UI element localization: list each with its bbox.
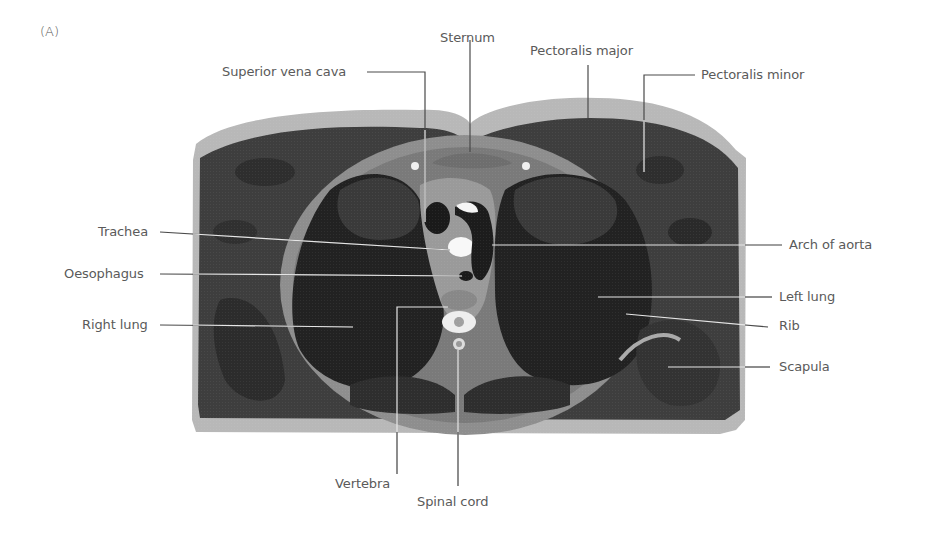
label-sternum: Sternum <box>440 30 495 46</box>
label-scapula: Scapula <box>779 359 830 375</box>
label-left-lung: Left lung <box>779 289 835 305</box>
label-right-lung: Right lung <box>82 317 148 333</box>
label-superior-vena-cava: Superior vena cava <box>222 64 346 80</box>
label-pectoralis-major: Pectoralis major <box>530 43 633 59</box>
label-arch-of-aorta: Arch of aorta <box>789 237 872 253</box>
label-rib: Rib <box>779 318 800 334</box>
label-trachea: Trachea <box>98 224 148 240</box>
label-oesophagus: Oesophagus <box>64 266 144 282</box>
label-spinal-cord: Spinal cord <box>417 494 488 510</box>
label-pectoralis-minor: Pectoralis minor <box>701 67 804 83</box>
label-vertebra: Vertebra <box>335 476 390 492</box>
